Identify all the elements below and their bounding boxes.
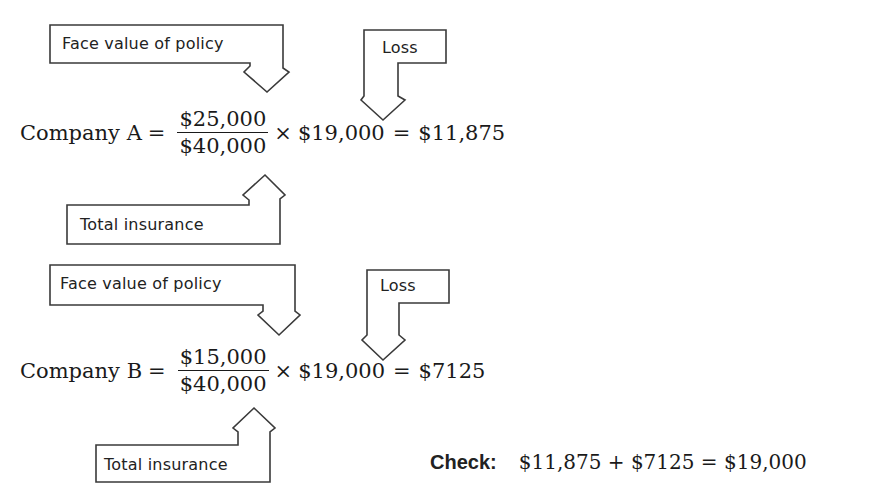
total-insurance-label-a: Total insurance [80,215,204,234]
company-a-name: Company A [20,121,142,145]
equals-sign: = [148,359,166,383]
denominator-total-insurance-b: $40,000 [178,371,269,396]
equals-sign: = [393,121,411,145]
face-value-label-a: Face value of policy [62,34,224,53]
check-line: Check: $11,875 + $7125 = $19,000 [430,450,807,474]
result-a: $11,875 [418,121,505,145]
loss-amount-a: $19,000 [298,121,385,145]
loss-amount-b: $19,000 [298,359,385,383]
fraction-b: $15,000 $40,000 [178,345,269,396]
face-value-label-b: Face value of policy [60,274,222,293]
fraction-a: $25,000 $40,000 [177,107,268,158]
loss-label-b: Loss [380,276,416,295]
denominator-total-insurance-a: $40,000 [177,133,268,158]
equation-company-b: Company B = $15,000 $40,000 × $19,000 = … [20,345,485,396]
total-insurance-label-b: Total insurance [104,455,228,474]
times-sign: × [274,121,292,145]
result-b: $7125 [419,359,486,383]
loss-label-a: Loss [382,38,418,57]
check-label: Check: [430,451,497,474]
equals-sign: = [393,359,411,383]
equation-company-a: Company A = $25,000 $40,000 × $19,000 = … [20,107,505,158]
callout-arrows [0,0,885,490]
check-expression: $11,875 + $7125 = $19,000 [519,450,807,474]
company-b-name: Company B [20,359,142,383]
equals-sign: = [148,121,166,145]
numerator-face-value-b: $15,000 [178,345,269,371]
times-sign: × [275,359,293,383]
numerator-face-value-a: $25,000 [177,107,268,133]
